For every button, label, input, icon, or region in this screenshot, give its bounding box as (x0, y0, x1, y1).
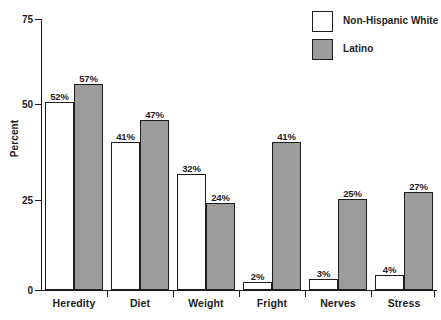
legend-swatch-icon-latino (312, 39, 333, 60)
bar-weight-non-hispanic-white[interactable] (177, 174, 206, 290)
bar-fright-latino[interactable] (272, 142, 301, 290)
bar-stress-non-hispanic-white[interactable] (375, 275, 404, 290)
legend-label-latino: Latino (343, 43, 373, 54)
x-axis-category-fright: Fright (239, 297, 305, 309)
plot-area: 52% 57% 41% 47% 32% 24% 2% 41% 3% 25% 4%… (41, 19, 437, 290)
y-tick-label-50: 50 (0, 99, 33, 110)
y-axis-title: Percent (9, 109, 20, 169)
bar-value-diet-latino: 47% (138, 109, 171, 120)
y-tick-label-25: 25 (0, 195, 33, 206)
x-axis-category-nerves: Nerves (305, 297, 371, 309)
legend-label-non-hispanic-white: Non-Hispanic White (343, 15, 438, 26)
grouped-bar-chart: Percent 75 50 25 0 52% 57% 41% 47% 32% 2… (0, 0, 441, 320)
x-axis-category-stress: Stress (371, 297, 437, 309)
bar-weight-latino[interactable] (206, 203, 235, 290)
bar-nerves-non-hispanic-white[interactable] (309, 279, 338, 290)
bar-value-fright-latino: 41% (270, 131, 303, 142)
bar-value-fright-non-hispanic-white: 2% (241, 271, 274, 282)
bar-diet-non-hispanic-white[interactable] (111, 142, 140, 290)
bar-diet-latino[interactable] (140, 120, 169, 290)
x-axis-category-heredity: Heredity (41, 297, 107, 309)
bar-heredity-non-hispanic-white[interactable] (45, 102, 74, 290)
legend-swatch-icon-non-hispanic-white (312, 11, 333, 32)
bar-nerves-latino[interactable] (338, 199, 367, 290)
bar-stress-latino[interactable] (404, 192, 433, 290)
bar-value-nerves-latino: 25% (336, 188, 369, 199)
bar-value-stress-non-hispanic-white: 4% (373, 264, 406, 275)
bar-value-nerves-non-hispanic-white: 3% (307, 268, 340, 279)
bar-value-weight-latino: 24% (204, 192, 237, 203)
bar-value-heredity-non-hispanic-white: 52% (43, 91, 76, 102)
y-tick-label-0: 0 (0, 285, 33, 296)
bar-value-stress-latino: 27% (402, 181, 435, 192)
x-axis-category-diet: Diet (107, 297, 173, 309)
bar-fright-non-hispanic-white[interactable] (243, 282, 272, 290)
bar-value-weight-non-hispanic-white: 32% (175, 163, 208, 174)
bar-heredity-latino[interactable] (74, 84, 103, 290)
y-tick-label-75: 75 (0, 14, 33, 25)
x-axis-category-weight: Weight (173, 297, 239, 309)
bar-value-diet-non-hispanic-white: 41% (109, 131, 142, 142)
bar-value-heredity-latino: 57% (72, 73, 105, 84)
